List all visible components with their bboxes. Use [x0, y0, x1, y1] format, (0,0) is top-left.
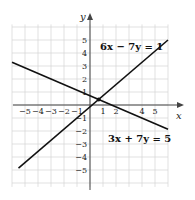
intersection-point [97, 97, 101, 101]
y-tick-label: −2 [75, 127, 87, 136]
x-tick-label: 5 [152, 107, 157, 116]
y-axis-label: y [79, 11, 86, 22]
coordinate-plane: x y −5−4−3−2−1124554321−1−2−3−4−5 6x − 7… [0, 0, 195, 200]
y-axis-arrow-icon [87, 13, 93, 20]
equation-label-1: 6x − 7y = 1 [100, 41, 163, 52]
x-tick-label: −5 [19, 107, 31, 116]
x-tick-label: 1 [100, 107, 105, 116]
x-tick-label: −4 [32, 107, 44, 116]
x-axis-label: x [176, 110, 182, 121]
plot-line-1 [19, 40, 169, 168]
x-axis-arrow-icon [177, 102, 184, 108]
y-tick-label: 2 [82, 75, 87, 84]
y-tick-label: 4 [82, 49, 87, 58]
y-tick-label: −4 [75, 153, 87, 162]
x-tick-label: −3 [45, 107, 57, 116]
y-tick-label: −3 [75, 140, 87, 149]
equation-label-2: 3x + 7y = 5 [108, 133, 171, 144]
y-tick-label: −5 [75, 166, 87, 175]
x-tick-label: −2 [58, 107, 70, 116]
y-tick-label: 3 [82, 62, 87, 71]
y-tick-label: 5 [82, 36, 87, 45]
x-tick-label: 4 [139, 107, 144, 116]
